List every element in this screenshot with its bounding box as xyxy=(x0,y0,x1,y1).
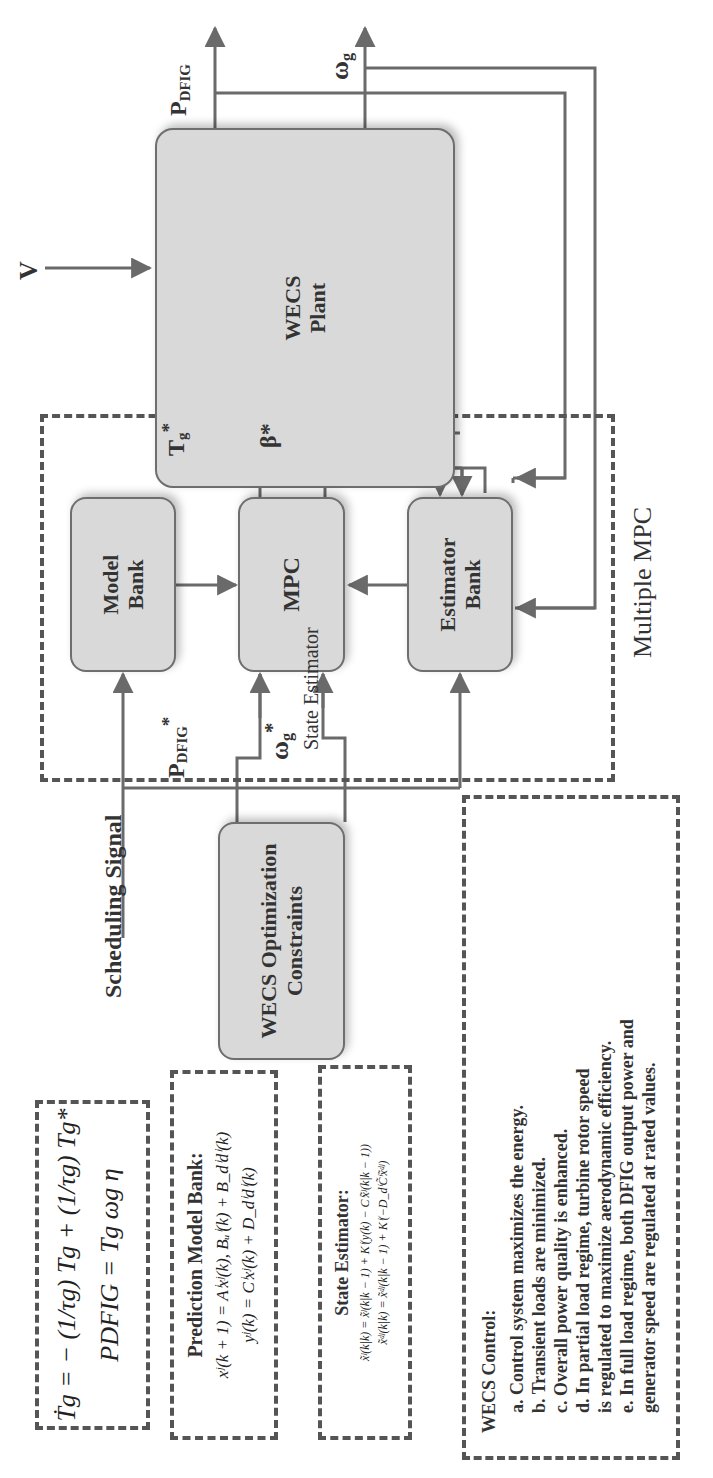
multiple-mpc-label: Multiple MPC xyxy=(628,507,658,658)
mpc-label: MPC xyxy=(278,557,306,612)
model-bank-label-1: Model xyxy=(98,555,123,615)
wecs-plant-block: WECS Plant xyxy=(155,128,455,488)
wecs-plant-label-1: WECS xyxy=(280,276,305,341)
wind-speed-label: V xyxy=(14,261,44,280)
wecs-control-item-e: e. In full load regime, both DFIG output… xyxy=(616,1019,638,1433)
state-estimator-equation-2: x̃ᵈʲ(k|k) = x̃ᵈʲ(k|k − 1) + Kⁱ(−D_dⁱC̃ⁱx… xyxy=(376,1069,391,1436)
optimization-label-2: Constraints xyxy=(282,844,307,1039)
tg-star-label: Tg* xyxy=(158,423,191,456)
state-estimator-title: State Estimator: xyxy=(332,1069,353,1436)
wecs-control-item-a: a. Control system maximizes the energy. xyxy=(506,1019,528,1433)
optimization-constraints-block: WECS Optimization Constraints xyxy=(218,822,345,1060)
estimator-bank-block: Estimator Bank xyxy=(407,497,513,672)
torque-dynamics-equation: Ṫg = − (1/τg) Tg + (1/τg) Tg* xyxy=(52,1107,82,1423)
omega-g-reference-label: ωg* xyxy=(260,723,296,760)
wecs-control-title: WECS Control: xyxy=(478,1019,500,1433)
power-equation: PDFIG = Tg ωg η xyxy=(95,1107,125,1423)
mpc-block: MPC xyxy=(238,497,345,672)
estimator-bank-label-1: Estimator xyxy=(435,537,460,631)
wecs-control-item-b: b. Transient loads are minimized. xyxy=(528,1019,550,1433)
wecs-control-item-c: c. Overall power quality is enhanced. xyxy=(550,1019,572,1433)
p-dfig-reference-label: PDFIG* xyxy=(158,717,191,778)
beta-star-label: β* xyxy=(255,423,282,448)
state-estimator-signal-label: State Estimator xyxy=(300,627,323,750)
model-bank-label-2: Bank xyxy=(123,555,148,615)
diagram-canvas: Multiple MPC WECS Plant Model Bank MPC E… xyxy=(0,0,713,1478)
wecs-control-item-e-cont: generator speed are regulated at rated v… xyxy=(638,1019,660,1433)
scheduling-signal-label: Scheduling Signal xyxy=(100,815,127,998)
wecs-control-item-d: d. In partial load regime, turbine rotor… xyxy=(572,1019,594,1433)
omega-g-output-label: ωg xyxy=(325,53,356,80)
optimization-label-1: WECS Optimization xyxy=(256,844,281,1039)
prediction-model-bank-title: Prediction Model Bank: xyxy=(184,1074,207,1436)
prediction-state-equation: xʲ(k + 1) = Aⁱxʲ(k), Bᵤⁱ(k) + B_dⁱdⁱ(k) xyxy=(212,1074,233,1436)
wecs-control-list: WECS Control: a. Control system maximize… xyxy=(478,1019,660,1433)
estimator-bank-label-2: Bank xyxy=(460,537,485,631)
state-estimator-equation-1: x̃ʲ(k|k) = x̃ʲ(k|k − 1) + Kⁱ(y(k) − Cⁱx̃… xyxy=(358,1069,373,1436)
p-dfig-output-label: PDFIG xyxy=(165,64,194,116)
prediction-output-equation: yʲ(k) = Cⁱxʲ(k) + D_dⁱdⁱ(k) xyxy=(238,1074,259,1436)
wecs-plant-label-2: Plant xyxy=(305,276,330,341)
wecs-control-item-d-cont: is regulated to maximize aerodynamic eff… xyxy=(594,1019,616,1433)
model-bank-block: Model Bank xyxy=(70,497,176,672)
